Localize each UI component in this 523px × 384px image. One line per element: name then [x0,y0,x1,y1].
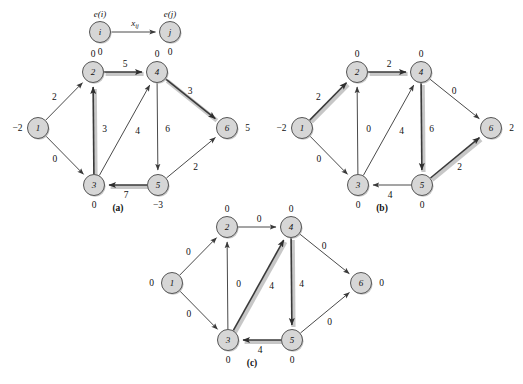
legend-excess-value-i: 0 [98,47,103,57]
panel-b-node-2: 2 [347,62,369,84]
panel-c-node-5-excess: 0 [290,355,295,365]
panel-c-arc-4-6[interactable] [300,234,350,274]
panel-c-arc-3-2-flow-label: 0 [236,279,241,289]
panel-c-node-2-label: 2 [225,222,230,232]
panel-b-arc-3-2[interactable] [357,87,358,174]
panel-a-node-5: 5 [148,175,170,197]
panel-c-arc-1-3-flow-label: 0 [186,309,191,319]
panel-a-node-1-excess: −2 [12,123,22,133]
panel-a-arc-1-3-flow-label: 0 [52,154,57,164]
panel-a: 2053463721−22030405−365(a) [12,49,250,215]
panel-a-arc-2-4-flow-label: 5 [123,59,128,69]
panel-a-arc-3-2-highlight [95,89,96,176]
network-diagram-canvas: ije(i)e(j)00xij 2053463721−22030405−365(… [0,0,523,384]
panel-c-node-4-label: 4 [289,222,294,232]
panel-a-caption: (a) [112,203,123,214]
panel-b-arc-1-3[interactable] [310,136,348,174]
panel-c-arc-4-5[interactable] [291,238,292,325]
panel-a-arc-1-3[interactable] [46,136,84,174]
panel-b-node-6-excess: 2 [509,123,514,133]
panel-b-node-2-excess: 0 [355,49,360,59]
legend-excess-label-j: e(j) [164,9,177,19]
legend-excess-label-i: e(i) [94,9,107,19]
panel-c-arc-2-4-flow-label: 0 [257,214,262,224]
panel-b-arc-2-4-flow-label: 2 [387,59,392,69]
panel-b-arc-1-2-highlight [311,85,348,122]
panel-c-node-1: 1 [162,273,184,295]
panel-b-node-3-label: 3 [355,180,361,190]
panel-a-node-2-label: 2 [91,67,96,77]
panel-c-node-2-excess: 0 [225,204,230,214]
panel-c-node-4: 4 [281,217,303,239]
panel-c-node-6-label: 6 [359,278,364,288]
panel-c-arc-1-3[interactable] [180,291,218,329]
panels-group: 2053463721−22030405−365(a)2020460421−220… [12,49,514,370]
panel-b-arc-5-6-flow-label: 2 [457,162,462,172]
panel-c-arc-1-2-flow-label: 0 [186,247,191,257]
panel-c: 000044040102030405060(c) [149,204,384,370]
panel-a-node-3: 3 [84,175,106,197]
panel-a-node-1: 1 [28,118,50,140]
panel-b-node-4: 4 [411,62,433,84]
panel-a-node-2-excess: 0 [91,49,96,59]
panel-b-node-4-excess: 0 [419,49,424,59]
panel-a-arc-5-3-flow-label: 7 [124,190,129,200]
panel-b-caption: (b) [376,203,388,214]
panel-a-node-4-label: 4 [155,67,160,77]
panel-c-arc-3-4[interactable] [233,240,283,330]
panel-c-arc-3-2[interactable] [227,242,228,329]
panel-c-node-3-excess: 0 [226,355,231,365]
panel-c-node-3: 3 [218,330,240,352]
panel-a-arc-4-6-flow-label: 3 [188,86,193,96]
panel-a-node-1-label: 1 [36,123,41,133]
panel-a-arc-5-6-flow-label: 2 [193,162,198,172]
panel-a-node-3-label: 3 [91,180,97,190]
panel-b-node-6: 6 [481,118,503,140]
panel-a-arc-1-2-flow-label: 2 [52,92,57,102]
panel-b-arc-4-5-flow-label: 6 [429,124,434,134]
panel-b-arc-4-6[interactable] [430,79,480,119]
panel-b-arc-3-4-flow-label: 4 [399,126,404,136]
panel-a-node-4: 4 [147,62,169,84]
panel-c-node-4-excess: 0 [289,204,294,214]
panel-b-node-5-label: 5 [420,180,425,190]
panel-c-node-5: 5 [282,330,304,352]
panel-a-node-5-label: 5 [156,180,161,190]
panel-c-arc-3-4-highlight [235,242,285,332]
legend-node-i: i [90,22,112,44]
panel-a-node-2: 2 [83,62,105,84]
panel-b-arc-4-5[interactable] [421,83,422,170]
panel-b-arc-4-5-highlight [423,85,424,172]
panel-b-arc-5-3-flow-label: 4 [388,190,393,200]
panel-b-node-2-label: 2 [355,67,360,77]
panel-b-node-4-label: 4 [419,67,424,77]
legend-arc-flow-subscript: ij [135,22,139,29]
panel-c-arc-5-6-flow-label: 0 [327,317,332,327]
panel-c-caption: (c) [247,358,258,369]
panel-a-arc-5-6[interactable] [166,138,215,178]
panel-b-arc-3-4[interactable] [363,85,413,175]
panel-a-arc-4-6[interactable] [166,79,216,119]
legend-arc-flow-label: xij [130,18,139,29]
panel-b-arc-5-6[interactable] [430,138,479,178]
panel-a-node-4-excess: 0 [155,49,160,59]
panel-b-node-1-excess: −2 [276,123,286,133]
panel-b-arc-4-6-flow-label: 0 [452,86,457,96]
panel-a-node-3-excess: 0 [92,200,97,210]
panel-c-node-1-excess: 0 [149,278,154,288]
panel-a-arc-4-5[interactable] [157,83,158,170]
panel-b-node-6-label: 6 [489,123,494,133]
panel-a-arc-3-4[interactable] [99,85,149,175]
panel-b-arc-5-6-highlight [432,140,481,180]
panel-b-node-5-excess: 0 [420,200,425,210]
panel-b-node-5: 5 [412,175,434,197]
panel-c-node-1-label: 1 [170,278,175,288]
panel-b: 2020460421−22030405062(b) [276,49,514,215]
panel-c-arc-4-6-flow-label: 0 [322,241,327,251]
legend-node-j: j [160,22,182,44]
panel-a-arc-3-2[interactable] [93,87,94,174]
panel-b-node-3: 3 [348,175,370,197]
legend-group: ije(i)e(j)00xij [90,9,182,57]
panel-c-arc-5-6[interactable] [300,293,349,333]
panel-c-node-6-excess: 0 [379,278,384,288]
